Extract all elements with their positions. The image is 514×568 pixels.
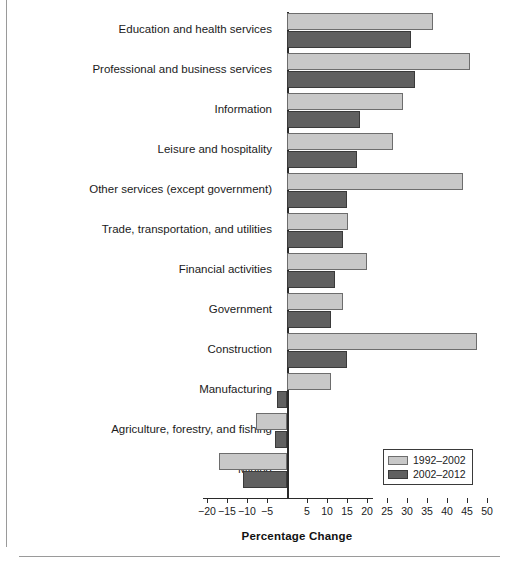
bar-0 [287, 53, 470, 70]
bar-1 [287, 111, 360, 128]
chart-row: Manufacturing [0, 372, 514, 412]
chart-row: Construction [0, 332, 514, 372]
legend-item: 2002–2012 [388, 467, 466, 481]
x-tick [487, 498, 488, 503]
bar-1 [287, 351, 347, 368]
x-tick [227, 498, 228, 503]
x-tick [367, 498, 368, 503]
x-tick-label: −5 [249, 505, 285, 517]
bar-0 [256, 413, 287, 430]
chart-row: Other services (except government) [0, 172, 514, 212]
x-tick [207, 498, 208, 503]
chart-row: Government [0, 292, 514, 332]
category-label: Trade, transportation, and utilities [0, 222, 272, 236]
bar-1 [287, 31, 411, 48]
bar-0 [287, 213, 348, 230]
x-tick [307, 498, 308, 503]
bar-0 [287, 253, 367, 270]
legend-swatch-icon [388, 456, 408, 465]
chart-row: Education and health services [0, 12, 514, 52]
legend-item: 1992–2002 [388, 453, 466, 467]
x-tick [427, 498, 428, 503]
chart-row: Agriculture, forestry, and fishing [0, 412, 514, 452]
bar-0 [287, 133, 393, 150]
x-tick [347, 498, 348, 503]
x-tick-label: 50 [469, 505, 505, 517]
legend-label: 2002–2012 [413, 468, 466, 480]
category-label: Agriculture, forestry, and fishing [0, 422, 272, 436]
x-tick [467, 498, 468, 503]
category-label: Manufacturing [0, 382, 272, 396]
x-axis-title-label: Percentage Change [162, 530, 353, 542]
bar-1 [287, 151, 357, 168]
chart-row: Financial activities [0, 252, 514, 292]
legend-swatch-icon [388, 470, 408, 479]
x-axis: −20−15−10−55101520253035404550 [0, 498, 514, 520]
x-tick [267, 498, 268, 503]
chart-row: Leisure and hospitality [0, 132, 514, 172]
bar-1 [277, 391, 287, 408]
x-tick [407, 498, 408, 503]
chart-row: Trade, transportation, and utilities [0, 212, 514, 252]
plot-area: Education and health servicesProfessiona… [0, 12, 514, 498]
bar-0 [287, 93, 403, 110]
bar-0 [287, 13, 433, 30]
x-axis-title: Percentage Change [0, 530, 514, 542]
x-tick [327, 498, 328, 503]
chart-row: Information [0, 92, 514, 132]
bar-0 [287, 373, 331, 390]
category-label: Education and health services [0, 22, 272, 36]
figure-page: Education and health servicesProfessiona… [0, 0, 514, 568]
category-label: Professional and business services [0, 62, 272, 76]
bar-1 [275, 431, 287, 448]
bar-1 [243, 471, 287, 488]
category-label: Financial activities [0, 262, 272, 276]
bar-1 [287, 271, 335, 288]
bar-1 [287, 231, 343, 248]
bar-chart: Education and health servicesProfessiona… [0, 0, 514, 520]
category-label: Government [0, 302, 272, 316]
x-tick [387, 498, 388, 503]
x-tick [447, 498, 448, 503]
category-label: Construction [0, 342, 272, 356]
bar-1 [287, 311, 331, 328]
page-bottom-rule [19, 556, 500, 557]
bar-0 [287, 333, 477, 350]
bar-0 [219, 453, 287, 470]
bar-1 [287, 191, 347, 208]
legend-label: 1992–2002 [413, 454, 466, 466]
bar-0 [287, 293, 343, 310]
legend: 1992–20022002–2012 [383, 449, 473, 485]
category-label: Other services (except government) [0, 182, 272, 196]
x-tick [247, 498, 248, 503]
category-label: Information [0, 102, 272, 116]
chart-row: Professional and business services [0, 52, 514, 92]
category-label: Leisure and hospitality [0, 142, 272, 156]
bar-1 [287, 71, 415, 88]
bar-0 [287, 173, 463, 190]
